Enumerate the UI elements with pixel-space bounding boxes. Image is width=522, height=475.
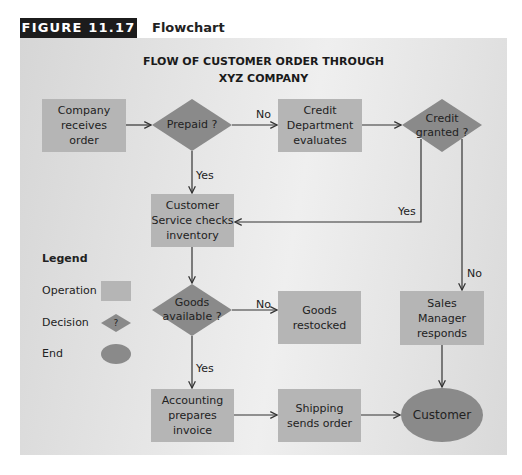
node-credit-department-evaluates: Credit Department evaluates [278,99,362,152]
legend-title: Legend [42,252,88,265]
node-accounting-prepares-invoice: Accounting prepares invoice [151,389,234,442]
edge-label-goods-no: No [256,298,271,311]
node-company-receives-order: Company receives order [42,99,126,152]
edge-label-prepaid-no: No [256,108,271,121]
edge-label-credit-no: No [467,267,482,280]
legend-decision-symbol: ? [101,314,131,332]
legend-end-label: End [42,347,63,360]
legend-operation-label: Operation [42,284,97,297]
node-goods-restocked: Goods restocked [278,291,361,344]
node-customer-service-checks-inventory: Customer Service checks inventory [151,194,234,247]
node-shipping-sends-order: Shipping sends order [278,389,361,442]
legend-decision-label: Decision [42,316,89,329]
edge-label-prepaid-yes: Yes [196,169,214,182]
node-credit-granted-label: Credit granted ? [402,99,482,152]
node-customer-label: Customer [401,388,483,442]
node-prepaid-label: Prepaid ? [152,99,232,151]
legend-end-shape [101,344,131,364]
edge-label-credit-yes: Yes [398,205,416,218]
legend-operation-shape [101,281,131,301]
node-goods-available-label: Goods available ? [152,284,232,336]
edge-label-goods-yes: Yes [196,362,214,375]
node-sales-manager-responds: Sales Manager responds [400,291,484,345]
